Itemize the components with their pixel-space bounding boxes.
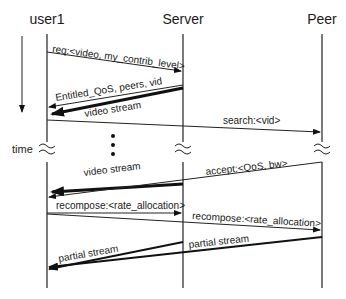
message-label-recompose-server: recompose:<rate_allocation> [56,200,185,211]
ellipsis-dots [111,134,115,156]
message-label-accept: accept:<QoS, bw> [205,157,288,177]
actor-label-server: Server [162,11,204,27]
message-label-search: search:<vid> [223,115,280,126]
actor-label-user1: user1 [29,11,64,27]
actor-label-peer: Peer [307,11,337,27]
message-label-entitled-qos: Entitled_QoS, peers, vid [55,75,163,103]
break-squiggle-server [175,144,191,154]
sequence-diagram: user1 Server Peer time req:<video, my_co… [0,0,346,299]
break-squiggle-user1 [39,144,55,154]
time-axis-label: time [12,143,33,155]
message-label-req: req:<video, my_contrib_level> [52,43,186,71]
message-label-video-stream-2: video stream [83,160,141,178]
break-squiggle-peer [314,144,330,154]
